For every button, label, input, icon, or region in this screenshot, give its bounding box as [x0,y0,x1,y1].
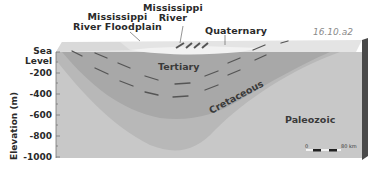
y-tick-sea-level: Sea Level [4,46,52,66]
paleozoic-label: Paleozoic [285,114,335,125]
cross-section-diagram [0,0,375,173]
figure-id-label: 16.10.a2 [313,27,353,37]
quaternary-label: Quaternary [205,26,267,36]
block-side-face [362,38,368,160]
floodplain-leader [130,32,140,41]
y-axis-title: Elevation (m) [9,92,19,160]
floodplain-label-line2: River Floodplain [73,22,162,32]
river-label: Mississippi River [143,3,203,23]
scale-bar-start-label: 0 [305,143,308,149]
river-label-line2: River [143,13,203,23]
river-leader [180,26,183,43]
scale-bar-end-label: 80 km [341,143,357,149]
y-tick-200: -200 [4,68,52,78]
tertiary-label: Tertiary [158,61,199,72]
